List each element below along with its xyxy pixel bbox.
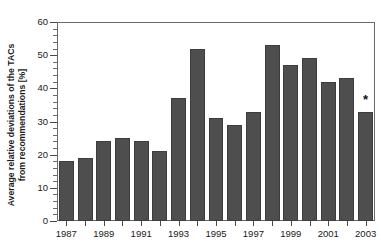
bar bbox=[134, 141, 149, 221]
bar bbox=[321, 82, 336, 221]
bar bbox=[152, 151, 167, 221]
bar bbox=[96, 141, 111, 221]
bar bbox=[302, 58, 317, 221]
bar bbox=[283, 65, 298, 221]
bar bbox=[59, 161, 74, 221]
bar bbox=[339, 78, 354, 221]
chart-figure: Average relative deviations of the TACs … bbox=[0, 0, 381, 250]
bar bbox=[227, 125, 242, 221]
bar bbox=[358, 112, 373, 221]
bar bbox=[78, 158, 93, 221]
bars-layer: * bbox=[0, 0, 381, 250]
bar bbox=[190, 49, 205, 221]
bar bbox=[209, 118, 224, 221]
bar bbox=[171, 98, 186, 221]
bar bbox=[246, 112, 261, 221]
asterisk-annotation: * bbox=[363, 95, 368, 105]
bar bbox=[265, 45, 280, 221]
bar bbox=[115, 138, 130, 221]
